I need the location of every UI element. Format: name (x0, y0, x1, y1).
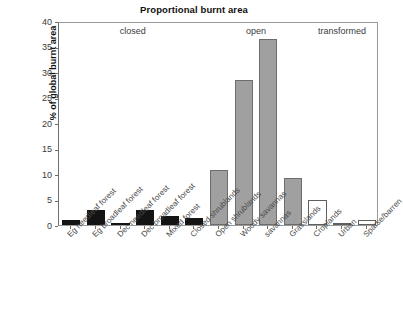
x-tick-label: Urban (337, 218, 358, 239)
x-tick-label: Sparse/barren (362, 197, 403, 239)
